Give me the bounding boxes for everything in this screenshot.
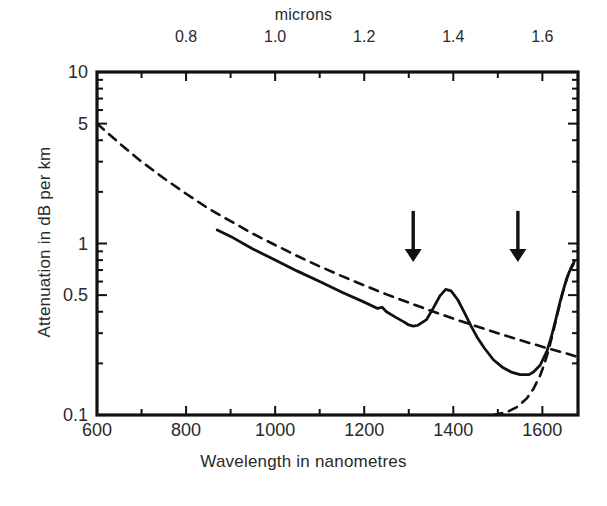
series-rayleigh-scattering bbox=[97, 124, 578, 357]
top-tick-label-0.8: 0.8 bbox=[175, 28, 197, 46]
top-axis-title: microns bbox=[0, 6, 607, 24]
series-infrared-absorption bbox=[493, 261, 574, 415]
data-series bbox=[97, 124, 578, 415]
arrow-1550nm-head bbox=[509, 249, 526, 262]
x-tick-label-800: 800 bbox=[171, 420, 201, 441]
plot-frame bbox=[97, 72, 578, 415]
y-tick-label-10: 10 bbox=[68, 62, 88, 83]
y-tick-label-1: 1 bbox=[78, 233, 88, 254]
x-tick-label-1200: 1200 bbox=[344, 420, 384, 441]
attenuation-chart-figure: microns Wavelength in nanometres Attenua… bbox=[0, 0, 607, 506]
axis-ticks bbox=[97, 72, 578, 415]
annotations bbox=[405, 211, 527, 262]
y-tick-label-0.5: 0.5 bbox=[63, 285, 88, 306]
x-tick-label-1600: 1600 bbox=[522, 420, 562, 441]
top-tick-label-1.0: 1.0 bbox=[264, 28, 286, 46]
y-tick-label-5: 5 bbox=[78, 113, 88, 134]
x-tick-label-1000: 1000 bbox=[255, 420, 295, 441]
x-axis-title: Wavelength in nanometres bbox=[0, 452, 607, 472]
top-tick-label-1.6: 1.6 bbox=[531, 28, 553, 46]
arrow-1310nm-head bbox=[405, 249, 422, 262]
top-tick-label-1.2: 1.2 bbox=[353, 28, 375, 46]
arrow-1310nm bbox=[405, 211, 422, 262]
plot-frame-rect bbox=[97, 72, 578, 415]
top-tick-label-1.4: 1.4 bbox=[442, 28, 464, 46]
y-axis-tick-labels: 10510.50.1 bbox=[34, 0, 88, 506]
x-tick-label-1400: 1400 bbox=[433, 420, 473, 441]
y-tick-label-0.1: 0.1 bbox=[63, 405, 88, 426]
arrow-1550nm bbox=[509, 211, 526, 262]
